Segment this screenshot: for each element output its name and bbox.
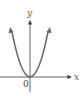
y-axis-label: y — [26, 8, 33, 18]
x-axis-label: x — [74, 72, 79, 82]
origin-label: 0 — [23, 79, 29, 89]
parabola-graph: y x 0 — [0, 0, 84, 96]
